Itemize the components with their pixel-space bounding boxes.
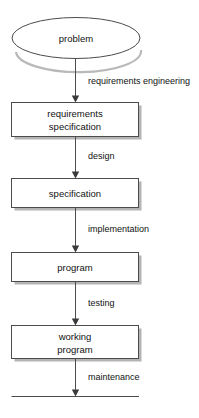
edge-3-label: implementation — [88, 224, 149, 234]
node-working-program-label-line-2: program — [57, 344, 92, 355]
node-problem[interactable]: problem — [12, 18, 141, 73]
edge-5-label: maintenance — [88, 372, 140, 382]
node-requirements-label-line-1: requirements — [47, 108, 103, 119]
edge-4-label: testing — [88, 298, 115, 308]
node-problem-label: problem — [59, 33, 93, 44]
node-program-label: program — [57, 262, 92, 273]
node-requirements-specification[interactable]: requirements specification — [12, 103, 142, 140]
edge-requirements-engineering: requirements engineering — [72, 59, 190, 103]
edge-design: design — [72, 137, 115, 179]
edge-4-arrowhead — [72, 319, 79, 326]
edge-3-arrowhead — [72, 246, 79, 253]
node-specification[interactable]: specification — [12, 179, 142, 211]
edge-2-arrowhead — [72, 172, 79, 179]
process-flow-diagram: problem requirements engineering require… — [0, 0, 199, 418]
edge-testing: testing — [72, 282, 115, 326]
node-working-program[interactable]: working program — [12, 326, 142, 362]
node-specification-label: specification — [49, 188, 101, 199]
node-program[interactable]: program — [12, 253, 142, 285]
node-requirements-label-line-2: specification — [49, 121, 101, 132]
edge-1-arrowhead — [72, 96, 79, 103]
edge-implementation: implementation — [72, 208, 149, 253]
edge-2-label: design — [88, 151, 115, 161]
diagram-canvas: problem requirements engineering require… — [0, 0, 199, 418]
edge-maintenance: maintenance — [72, 359, 140, 397]
edge-5-arrowhead — [72, 390, 79, 397]
node-working-program-label-line-1: working — [58, 331, 92, 342]
edge-1-label: requirements engineering — [88, 76, 190, 86]
